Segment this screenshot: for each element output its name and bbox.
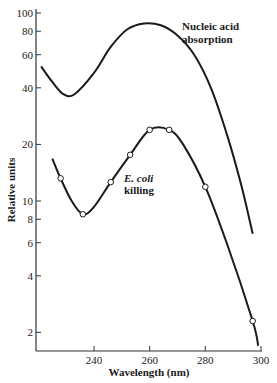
chart-canvas: 24681020406080100240260280300 Wavelength… [0, 0, 277, 383]
series-label-nucleic-acid: Nucleic acid absorption [182, 20, 242, 45]
data-point-marker [80, 211, 86, 217]
y-tick-label: 80 [22, 25, 34, 37]
data-point-marker [250, 318, 256, 324]
labels-layer: Wavelength (nm) Relative units Nucleic a… [5, 20, 242, 379]
data-point-marker [58, 176, 64, 182]
data-point-marker [147, 127, 153, 133]
y-tick-label: 2 [28, 326, 34, 338]
y-tick-label: 10 [22, 195, 34, 207]
x-tick-label: 280 [197, 354, 214, 366]
y-tick-label: 40 [22, 82, 34, 94]
y-tick-label: 60 [22, 49, 34, 61]
data-point-marker [127, 152, 133, 158]
x-axis-label: Wavelength (nm) [109, 366, 190, 379]
series-line-1 [52, 127, 258, 345]
data-point-marker [203, 184, 209, 190]
series-label-ecoli: E. coli killing [123, 172, 156, 196]
y-tick-label: 4 [28, 270, 34, 282]
data-point-marker [108, 179, 114, 185]
x-tick-label: 300 [253, 354, 270, 366]
y-axis-label: Relative units [5, 157, 17, 222]
x-tick-label: 240 [86, 354, 103, 366]
y-tick-label: 20 [22, 138, 34, 150]
y-tick-label: 100 [17, 7, 34, 19]
y-tick-label: 8 [28, 213, 34, 225]
y-tick-label: 6 [28, 237, 34, 249]
data-point-marker [166, 127, 172, 133]
x-tick-label: 260 [141, 354, 158, 366]
